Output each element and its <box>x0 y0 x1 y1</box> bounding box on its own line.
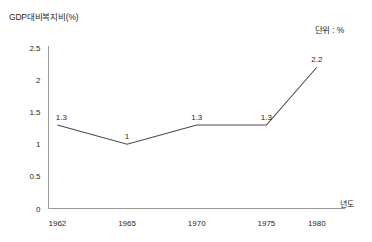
plot-area: 00.511.522.5 19621965197019751980 1.311.… <box>0 0 372 242</box>
x-axis-tick-label: 1970 <box>188 219 206 228</box>
y-axis-tick-label: 2 <box>36 76 41 85</box>
x-axis-tick-label: 1975 <box>258 219 276 228</box>
data-point-label: 1.3 <box>56 113 68 122</box>
data-series-line <box>57 67 316 144</box>
data-point-label: 1 <box>125 132 130 141</box>
y-axis-tick-label: 0 <box>36 205 41 214</box>
y-axis-tick-label: 1.5 <box>29 108 41 117</box>
y-axis-tick-label: 2.5 <box>29 44 41 53</box>
y-axis-tick-label: 1 <box>36 140 41 149</box>
data-point-label: 2.2 <box>311 55 323 64</box>
x-axis-title: 년도 <box>340 200 354 210</box>
y-axis-tick-labels: 00.511.522.5 <box>29 44 41 214</box>
chart-container: GDP대비복지비(%) 단위 : % 00.511.522.5 19621965… <box>0 0 372 242</box>
y-axis-tick-label: 0.5 <box>29 172 41 181</box>
x-axis-tick-label: 1980 <box>308 219 326 228</box>
x-axis-tick-labels: 19621965197019751980 <box>48 219 326 228</box>
x-axis-tick-label: 1962 <box>48 219 66 228</box>
data-point-labels: 1.311.31.32.2 <box>56 55 323 141</box>
x-axis-tick-label: 1965 <box>118 219 136 228</box>
data-point-label: 1.3 <box>261 113 273 122</box>
data-point-label: 1.3 <box>191 113 203 122</box>
